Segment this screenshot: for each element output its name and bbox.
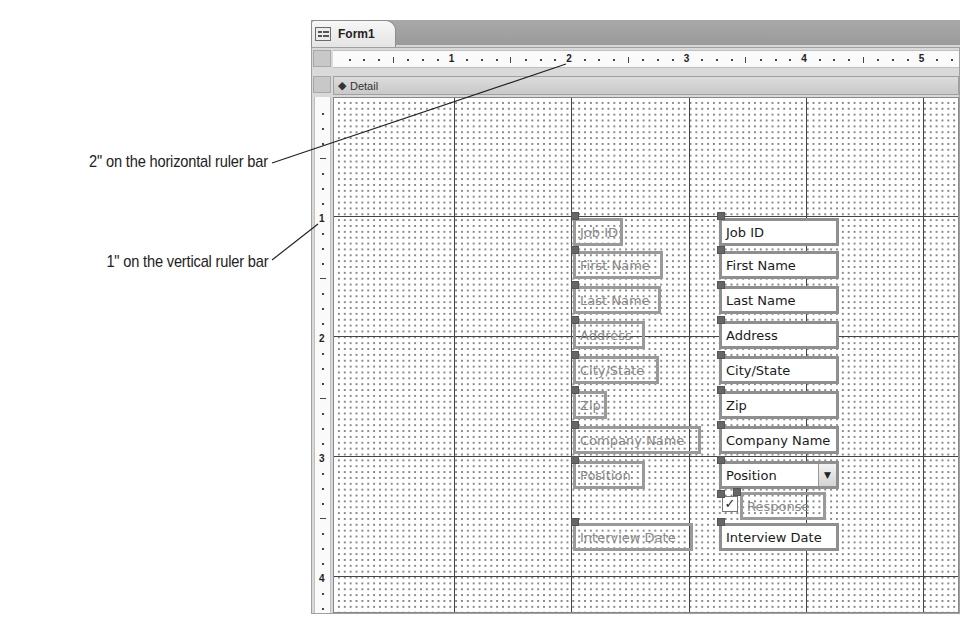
move-handle[interactable] (571, 316, 579, 324)
ruler-tick (320, 398, 326, 399)
move-handle[interactable] (571, 281, 579, 289)
move-handle[interactable] (717, 316, 725, 324)
label-position[interactable]: Position (573, 461, 645, 489)
move-handle[interactable] (717, 386, 725, 394)
label-company-name[interactable]: Company Name (573, 426, 701, 454)
grid-line (334, 216, 958, 217)
ruler-tick (322, 173, 324, 175)
ruler-tick (322, 548, 324, 550)
textbox-job-id[interactable]: Job ID (719, 218, 839, 246)
vertical-ruler[interactable]: 1234 (314, 97, 331, 613)
ruler-tick (322, 353, 324, 355)
ruler-tick (322, 503, 324, 505)
ruler-tick (322, 488, 324, 490)
textbox-last-name[interactable]: Last Name (719, 286, 839, 314)
ruler-tick (322, 113, 324, 115)
move-handle[interactable] (717, 281, 725, 289)
move-handle[interactable] (733, 488, 741, 496)
ruler-number: 2 (566, 53, 572, 64)
label-address[interactable]: Address (573, 321, 645, 349)
move-handle[interactable] (717, 246, 725, 254)
ruler-tick (731, 59, 733, 61)
section-selector[interactable] (313, 76, 331, 93)
design-workarea: 12345 ◆ Detail 1234 Job ID First Name La… (311, 47, 960, 614)
ruler-tick (466, 59, 468, 61)
label-first-name[interactable]: First Name (573, 251, 663, 279)
ruler-tick (936, 59, 938, 61)
tab-form1[interactable]: Form1 (311, 20, 396, 47)
horizontal-ruler[interactable]: 12345 (333, 50, 959, 68)
move-handle[interactable] (717, 421, 725, 429)
ruler-tick (540, 59, 542, 61)
label-zip[interactable]: Zip (573, 391, 607, 419)
textbox-company-name[interactable]: Company Name (719, 426, 839, 454)
checkbox-response[interactable]: ✓ (722, 496, 738, 512)
ruler-tick (322, 248, 324, 250)
combobox-position[interactable]: Position ▼ (719, 461, 839, 489)
label-response[interactable]: Response (740, 492, 826, 520)
ruler-tick (628, 57, 629, 63)
ruler-tick (322, 533, 324, 535)
move-handle[interactable] (571, 246, 579, 254)
ruler-tick (322, 428, 324, 430)
ruler-tick (349, 59, 351, 61)
detail-design-grid[interactable]: Job ID First Name Last Name Address City… (333, 97, 959, 613)
grid-line (454, 98, 455, 612)
label-city-state[interactable]: City/State (573, 356, 659, 384)
ruler-tick (760, 59, 762, 61)
move-handle[interactable] (717, 212, 725, 220)
section-label: Detail (350, 80, 378, 92)
move-handle[interactable] (571, 351, 579, 359)
move-handle[interactable] (717, 351, 725, 359)
ruler-tick (322, 143, 324, 145)
ruler-number: 1 (319, 213, 325, 224)
ruler-number: 4 (801, 53, 807, 64)
ruler-tick (322, 233, 324, 235)
textbox-interview-date[interactable]: Interview Date (719, 523, 839, 551)
callout-vertical-ruler: 1" on the vertical ruler bar (106, 252, 268, 272)
callout-horizontal-ruler: 2" on the horizontal ruler bar (89, 152, 268, 172)
ruler-tick (363, 59, 365, 61)
label-job-id[interactable]: Job ID (573, 218, 623, 246)
form-selector[interactable] (313, 50, 331, 67)
ruler-tick (554, 59, 556, 61)
grid-line (334, 336, 958, 337)
detail-section-bar[interactable]: ◆ Detail (333, 76, 959, 95)
move-handle[interactable] (571, 421, 579, 429)
grid-line (334, 576, 958, 577)
ruler-tick (672, 59, 674, 61)
move-handle[interactable] (717, 518, 725, 526)
label-interview-date[interactable]: Interview Date (573, 523, 693, 551)
move-handle[interactable] (571, 518, 579, 526)
move-handle[interactable] (717, 456, 725, 464)
textbox-address[interactable]: Address (719, 321, 839, 349)
ruler-tick (322, 443, 324, 445)
ruler-number: 2 (319, 333, 325, 344)
ruler-tick (320, 158, 326, 159)
ruler-tick (322, 383, 324, 385)
textbox-first-name[interactable]: First Name (719, 251, 839, 279)
grid-line (923, 98, 924, 612)
textbox-city-state[interactable]: City/State (719, 356, 839, 384)
form-icon (315, 27, 331, 41)
ruler-tick (613, 59, 615, 61)
ruler-tick (819, 59, 821, 61)
move-handle[interactable] (717, 490, 725, 498)
ruler-tick (877, 59, 879, 61)
textbox-zip[interactable]: Zip (719, 391, 839, 419)
label-last-name[interactable]: Last Name (573, 286, 661, 314)
move-handle[interactable] (571, 456, 579, 464)
dropdown-arrow-icon[interactable]: ▼ (818, 464, 836, 486)
ruler-tick (322, 308, 324, 310)
ruler-number: 3 (319, 453, 325, 464)
ruler-tick (322, 203, 324, 205)
ruler-tick (322, 368, 324, 370)
ruler-tick (437, 59, 439, 61)
grid-line (334, 456, 958, 457)
ruler-tick (322, 608, 324, 610)
ruler-tick (848, 59, 850, 61)
ruler-tick (322, 563, 324, 565)
move-handle[interactable] (571, 212, 579, 220)
move-handle[interactable] (571, 386, 579, 394)
ruler-tick (584, 59, 586, 61)
